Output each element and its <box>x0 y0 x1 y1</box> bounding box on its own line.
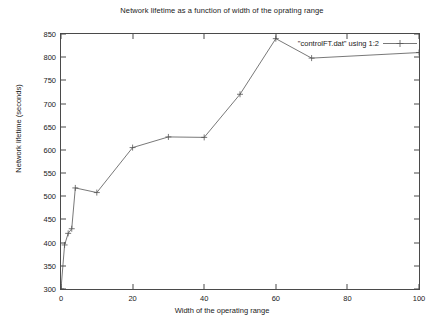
x-tick-label: 20 <box>128 294 136 303</box>
x-tick-label: 80 <box>343 294 351 303</box>
y-tick-label: 550 <box>43 169 56 178</box>
y-tick-mark <box>61 34 66 35</box>
y-tick-mark <box>61 126 66 127</box>
y-axis-title: Network lifetime (seconds) <box>14 49 23 209</box>
series-line <box>61 39 419 289</box>
y-tick-mark <box>414 80 419 81</box>
x-tick-mark <box>275 34 276 39</box>
y-tick-mark <box>61 289 66 290</box>
y-tick-label: 500 <box>43 192 56 201</box>
y-tick-mark <box>61 173 66 174</box>
x-tick-label: 60 <box>272 294 280 303</box>
y-tick-mark <box>414 219 419 220</box>
x-tick-mark <box>347 284 348 289</box>
chart-title: Network lifetime as a function of width … <box>0 6 444 15</box>
y-tick-mark <box>61 219 66 220</box>
y-tick-label: 450 <box>43 215 56 224</box>
y-axis-tick-labels: 300350400450500550600650700750800850 <box>22 33 56 290</box>
y-tick-label: 750 <box>43 76 56 85</box>
y-tick-mark <box>414 57 419 58</box>
y-tick-mark <box>61 196 66 197</box>
y-tick-mark <box>61 242 66 243</box>
y-tick-mark <box>414 173 419 174</box>
y-tick-mark <box>414 149 419 150</box>
y-tick-label: 650 <box>43 122 56 131</box>
legend-entry-label: "controlFT.dat" using 1:2 <box>298 39 379 48</box>
y-tick-mark <box>414 265 419 266</box>
y-tick-label: 800 <box>43 53 56 62</box>
data-point-marker <box>165 134 171 140</box>
x-tick-mark <box>61 284 62 289</box>
legend-line-sample <box>383 39 417 48</box>
x-tick-label: 40 <box>200 294 208 303</box>
x-tick-mark <box>419 34 420 39</box>
x-tick-mark <box>204 34 205 39</box>
data-series-plot <box>61 34 419 289</box>
x-tick-mark <box>132 34 133 39</box>
y-tick-label: 300 <box>43 285 56 294</box>
y-tick-mark <box>61 265 66 266</box>
x-tick-mark <box>61 34 62 39</box>
chart-figure: Network lifetime as a function of width … <box>0 0 444 329</box>
y-tick-mark <box>61 149 66 150</box>
x-tick-mark <box>419 284 420 289</box>
y-tick-mark <box>414 103 419 104</box>
y-tick-mark <box>61 57 66 58</box>
y-tick-mark <box>61 80 66 81</box>
x-tick-label: 0 <box>59 294 63 303</box>
x-tick-mark <box>275 284 276 289</box>
x-tick-label: 100 <box>413 294 426 303</box>
x-tick-mark <box>204 284 205 289</box>
y-tick-label: 700 <box>43 99 56 108</box>
y-tick-label: 600 <box>43 145 56 154</box>
y-tick-label: 350 <box>43 261 56 270</box>
y-tick-mark <box>414 196 419 197</box>
y-tick-label: 850 <box>43 30 56 39</box>
data-point-marker <box>309 55 315 61</box>
y-tick-label: 400 <box>43 238 56 247</box>
x-tick-mark <box>132 284 133 289</box>
y-tick-mark <box>414 126 419 127</box>
legend: "controlFT.dat" using 1:2 <box>283 36 417 51</box>
x-axis-title: Width of the operating range <box>0 306 444 315</box>
y-tick-mark <box>414 242 419 243</box>
plot-area <box>60 33 420 290</box>
data-point-marker <box>72 185 78 191</box>
y-tick-mark <box>61 103 66 104</box>
